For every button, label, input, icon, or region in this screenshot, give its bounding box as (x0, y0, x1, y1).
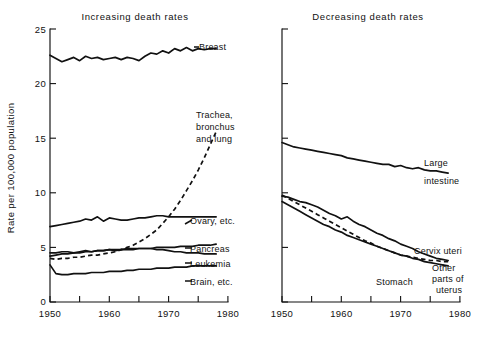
left-y-tick-labels: 0 5 10 15 20 25 (35, 24, 46, 307)
series-line-trachea-bronchus-and-lung (50, 132, 216, 260)
y-tick-15: 15 (35, 133, 46, 144)
y-tick-20: 20 (35, 78, 46, 89)
y-tick-10: 10 (35, 187, 46, 198)
y-tick-0: 0 (40, 296, 46, 307)
right-x-ticks (282, 296, 460, 302)
x-tick-1960: 1960 (98, 308, 120, 319)
cancer-death-rates-chart: Increasing death rates Rate per 100,000 … (0, 0, 488, 339)
series-label-other-3: uterus (436, 285, 463, 295)
series-label-breast: Breast (199, 42, 227, 52)
right-x-tick-labels: 1950 1960 1970 1980 (271, 308, 471, 319)
series-label-pancreas: Pancreas (190, 244, 230, 254)
x-tick-1970-right: 1970 (389, 308, 411, 319)
figure-container: Increasing death rates Rate per 100,000 … (0, 0, 488, 339)
y-axis-label: Rate per 100,000 population (5, 103, 16, 234)
y-tick-5: 5 (40, 242, 46, 253)
left-x-ticks (50, 296, 228, 302)
right-y-ticks (282, 29, 288, 302)
y-tick-25: 25 (35, 24, 46, 35)
series-label-other-1: Other (432, 263, 456, 273)
x-tick-1980-right: 1980 (449, 308, 471, 319)
series-label-cervix: Cervix uteri (414, 246, 462, 256)
x-tick-1950-right: 1950 (271, 308, 293, 319)
series-label-large: Large (424, 158, 448, 168)
left-y-ticks (50, 29, 56, 302)
series-label-other-2: parts of (432, 274, 464, 284)
series-label-trachea-1: Trachea, (196, 110, 233, 120)
series-label-trachea-2: bronchus (196, 122, 235, 132)
left-x-tick-labels: 1950 1960 1970 1980 (39, 308, 239, 319)
series-label-ovary: Ovary, etc. (190, 216, 235, 226)
x-tick-1960-right: 1960 (330, 308, 352, 319)
x-tick-1970: 1970 (157, 308, 179, 319)
series-line-breast (50, 48, 216, 62)
right-panel-title: Decreasing death rates (312, 11, 423, 22)
x-tick-1950: 1950 (39, 308, 61, 319)
series-label-stomach: Stomach (376, 277, 413, 287)
x-tick-1980: 1980 (217, 308, 239, 319)
series-label-brain: Brain, etc. (190, 277, 233, 287)
series-label-trachea-3: and lung (196, 134, 232, 144)
series-label-leukemia: Leukemia (190, 259, 231, 269)
left-panel-title: Increasing death rates (81, 11, 188, 22)
series-label-intestine: intestine (424, 176, 459, 186)
series-line-stomach (282, 202, 448, 266)
